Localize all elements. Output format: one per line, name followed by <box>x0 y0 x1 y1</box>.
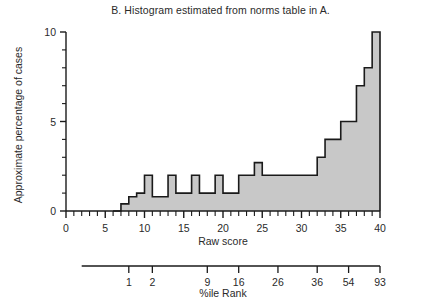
percentile-axis-tick-label: 93 <box>374 276 386 288</box>
percentile-axis-tick-label: 2 <box>149 276 155 288</box>
y-axis: 0510 <box>44 26 66 217</box>
y-axis-tick-label: 5 <box>50 116 56 128</box>
percentile-axis-tick-label: 9 <box>204 276 210 288</box>
y-axis-title: Approximate percentage of cases <box>12 47 24 203</box>
x-axis-tick-label: 35 <box>335 222 347 234</box>
chart-canvas: Approximate percentage of cases Raw scor… <box>0 0 441 308</box>
x-axis-tick-label: 5 <box>102 222 108 234</box>
percentile-axis-tick-label: 54 <box>343 276 355 288</box>
y-axis-tick-label: 10 <box>44 26 56 38</box>
x-axis-tick-label: 15 <box>178 222 190 234</box>
secondary-axis-title: %ile Rank <box>199 287 247 299</box>
figure-title: B. Histogram estimated from norms table … <box>0 4 441 16</box>
x-axis-tick-label: 0 <box>63 222 69 234</box>
percentile-rank-axis: 1291626365493 <box>82 266 386 288</box>
percentile-axis-tick-label: 36 <box>311 276 323 288</box>
percentile-axis-tick-label: 26 <box>272 276 284 288</box>
x-axis: 0510152025303540 <box>63 211 386 234</box>
x-axis-title: Raw score <box>198 235 248 247</box>
y-axis-tick-label: 0 <box>50 205 56 217</box>
x-axis-tick-label: 40 <box>374 222 386 234</box>
x-axis-tick-label: 30 <box>296 222 308 234</box>
x-axis-tick-label: 25 <box>256 222 268 234</box>
x-axis-tick-label: 20 <box>217 222 229 234</box>
plot-area <box>113 32 380 211</box>
percentile-axis-tick-label: 1 <box>126 276 132 288</box>
histogram-figure: B. Histogram estimated from norms table … <box>0 0 441 308</box>
percentile-axis-tick-label: 16 <box>233 276 245 288</box>
x-axis-tick-label: 10 <box>139 222 151 234</box>
